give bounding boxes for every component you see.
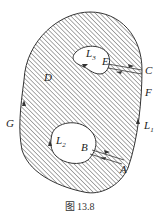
label-C: C <box>145 64 152 76</box>
label-F: F <box>145 86 152 98</box>
label-G: G <box>6 117 14 129</box>
label-A: A <box>120 163 127 175</box>
label-L2: L2 <box>56 134 66 149</box>
label-D: D <box>44 71 52 83</box>
label-B: B <box>81 141 88 153</box>
region-diagram <box>0 0 159 217</box>
figure-caption: 图 13.8 <box>0 198 159 213</box>
label-L1: L1 <box>144 119 154 134</box>
label-E: E <box>102 55 109 67</box>
label-L3: L3 <box>86 47 96 62</box>
